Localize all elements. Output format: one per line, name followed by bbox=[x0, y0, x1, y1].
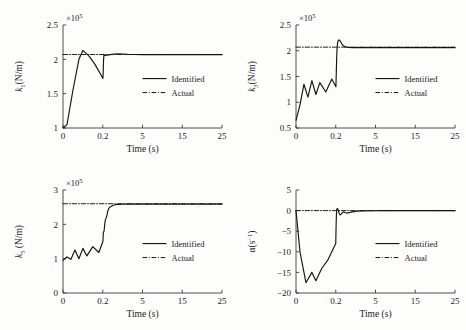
y-tick-label: 1 bbox=[287, 97, 292, 107]
x-tick-label: 15 bbox=[178, 296, 188, 306]
legend-label-identified: Identified bbox=[405, 74, 439, 84]
x-axis-title: Time (s) bbox=[359, 309, 391, 320]
svg-text:k3(N/m): k3(N/m) bbox=[247, 61, 259, 92]
y-tick-label: 1.5 bbox=[47, 89, 59, 99]
x-tick-label: 15 bbox=[411, 131, 421, 141]
legend-label-identified: Identified bbox=[405, 239, 439, 249]
y-tick-label: −5 bbox=[281, 226, 291, 236]
x-axis-title: Time (s) bbox=[126, 144, 158, 155]
legend-label-actual: Actual bbox=[405, 253, 428, 263]
plot-svg-k5: 00.2515250123×105k5 (N/m)Time (s)Identif… bbox=[0, 165, 233, 330]
y-tick-label: 2.5 bbox=[280, 20, 292, 30]
y-tick-label: 0 bbox=[54, 288, 59, 298]
plot-panel-alpha: 00.25152550−5−10−15−20α(s−1)Time (s)Iden… bbox=[233, 165, 466, 330]
legend-label-actual: Actual bbox=[405, 88, 428, 98]
x-tick-label: 5 bbox=[373, 131, 378, 141]
y-axis-exponent: ×105 bbox=[299, 12, 316, 23]
x-tick-label: 5 bbox=[140, 296, 145, 306]
x-tick-label: 25 bbox=[451, 131, 461, 141]
legend: IdentifiedActual bbox=[376, 74, 439, 98]
svg-text:k5 (N/m): k5 (N/m) bbox=[14, 225, 26, 258]
x-tick-label: 0.2 bbox=[97, 131, 108, 141]
svg-text:×105: ×105 bbox=[66, 177, 83, 188]
legend-label-actual: Actual bbox=[172, 253, 195, 263]
plot-svg-k3: 00.2515250.511.522.5×105k3(N/m)Time (s)I… bbox=[233, 0, 466, 165]
y-tick-label: 3 bbox=[54, 185, 59, 195]
x-tick-label: 0 bbox=[294, 131, 299, 141]
x-axis-title: Time (s) bbox=[126, 309, 158, 320]
y-tick-label: 1.5 bbox=[280, 72, 292, 82]
plot-panel-k5: 00.2515250123×105k5 (N/m)Time (s)Identif… bbox=[0, 165, 233, 330]
svg-text:k1(N/m): k1(N/m) bbox=[14, 61, 26, 92]
y-axis-ticks: 0123 bbox=[54, 185, 67, 298]
legend-label-identified: Identified bbox=[172, 74, 206, 84]
legend: IdentifiedActual bbox=[143, 74, 206, 98]
legend: IdentifiedActual bbox=[143, 239, 206, 263]
plot-panel-k3: 00.2515250.511.522.5×105k3(N/m)Time (s)I… bbox=[233, 0, 466, 165]
x-tick-label: 15 bbox=[411, 296, 421, 306]
plot-svg-k1: 00.25152511.522.5×105k1(N/m)Time (s)Iden… bbox=[0, 0, 233, 165]
x-tick-label: 15 bbox=[178, 131, 188, 141]
svg-text:×105: ×105 bbox=[299, 12, 316, 23]
y-axis-title: α(s−1) bbox=[246, 231, 258, 253]
y-tick-label: 1 bbox=[54, 254, 59, 264]
x-axis-ticks: 00.251525 bbox=[294, 290, 460, 306]
y-axis-title: k5 (N/m) bbox=[14, 225, 26, 258]
y-tick-label: 2.5 bbox=[47, 20, 59, 30]
x-tick-label: 0 bbox=[294, 296, 299, 306]
x-tick-label: 25 bbox=[218, 296, 228, 306]
x-tick-label: 0 bbox=[61, 296, 66, 306]
legend-label-actual: Actual bbox=[172, 88, 195, 98]
series-line-identified bbox=[63, 204, 222, 260]
legend-label-identified: Identified bbox=[172, 239, 206, 249]
x-tick-label: 5 bbox=[373, 296, 378, 306]
x-tick-label: 0.2 bbox=[330, 296, 341, 306]
x-tick-label: 25 bbox=[451, 296, 461, 306]
y-axis-exponent: ×105 bbox=[66, 177, 83, 188]
y-tick-label: −15 bbox=[277, 268, 292, 278]
x-tick-label: 25 bbox=[218, 131, 228, 141]
y-tick-label: −20 bbox=[277, 288, 292, 298]
svg-text:×105: ×105 bbox=[66, 12, 83, 23]
y-tick-label: 1 bbox=[54, 123, 59, 133]
x-axis-ticks: 00.251525 bbox=[294, 125, 460, 141]
y-axis-title: k3(N/m) bbox=[247, 61, 259, 92]
y-axis-title: k1(N/m) bbox=[14, 61, 26, 92]
y-tick-label: −10 bbox=[277, 247, 292, 257]
series-line-identified bbox=[63, 50, 222, 128]
x-tick-label: 0.2 bbox=[330, 131, 341, 141]
y-tick-label: 2 bbox=[287, 46, 292, 56]
y-tick-label: 0.5 bbox=[280, 123, 292, 133]
y-tick-label: 5 bbox=[287, 185, 292, 195]
figure-grid: 00.25152511.522.5×105k1(N/m)Time (s)Iden… bbox=[0, 0, 466, 330]
y-tick-label: 2 bbox=[54, 55, 59, 65]
x-tick-label: 0.2 bbox=[97, 296, 108, 306]
plot-panel-k1: 00.25152511.522.5×105k1(N/m)Time (s)Iden… bbox=[0, 0, 233, 165]
y-tick-label: 0 bbox=[287, 206, 292, 216]
legend: IdentifiedActual bbox=[376, 239, 439, 263]
y-tick-label: 2 bbox=[54, 220, 59, 230]
plot-svg-alpha: 00.25152550−5−10−15−20α(s−1)Time (s)Iden… bbox=[233, 165, 466, 330]
x-axis-ticks: 00.251525 bbox=[61, 290, 227, 306]
x-axis-title: Time (s) bbox=[359, 144, 391, 155]
x-tick-label: 0 bbox=[61, 131, 66, 141]
svg-text:α(s−1): α(s−1) bbox=[246, 231, 258, 253]
y-axis-exponent: ×105 bbox=[66, 12, 83, 23]
x-tick-label: 5 bbox=[140, 131, 145, 141]
x-axis-ticks: 00.251525 bbox=[61, 125, 227, 141]
